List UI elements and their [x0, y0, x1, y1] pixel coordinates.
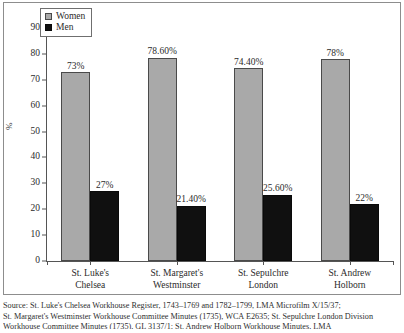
- bar-value-label: 74.40%: [234, 58, 263, 68]
- x-axis-category-label: St. Luke'sChelsea: [71, 267, 109, 291]
- y-axis-tick-30: 30: [31, 179, 41, 189]
- bar-pair: 78%22%: [307, 28, 394, 261]
- legend-item-men: Men: [45, 22, 85, 33]
- source-note-line-2: St. Margaret's Westminster Workhouse Com…: [3, 312, 401, 323]
- bar-group: 73%27%: [47, 28, 134, 261]
- bar-value-label: 78.60%: [148, 47, 177, 57]
- bar-women: 74.40%: [234, 68, 263, 261]
- x-axis-tickmark: [350, 261, 351, 265]
- figure: % 0102030405060708090 73%27%78.60%21.40%…: [0, 0, 404, 333]
- x-axis-tickmark: [263, 261, 264, 265]
- y-axis-tick-60: 60: [31, 101, 41, 111]
- x-axis-category-labels: St. Luke'sChelseaSt. Margaret'sWestminst…: [47, 267, 393, 297]
- bar-value-label: 73%: [67, 62, 84, 72]
- bar-women: 78%: [321, 59, 350, 261]
- source-note-line-3: Workhouse Committee Minutes (1735), GL 3…: [3, 322, 401, 329]
- bar-men: 22%: [350, 204, 379, 261]
- y-axis-tick-90: 90: [31, 23, 41, 33]
- y-axis-tick-20: 20: [31, 204, 41, 214]
- bar-men: 25.60%: [263, 195, 292, 261]
- y-axis-tick-10: 10: [31, 230, 41, 240]
- legend-label-women: Women: [56, 11, 85, 22]
- y-axis-label: %: [4, 123, 14, 131]
- bar-group: 74.40%25.60%: [220, 28, 307, 261]
- bar-pair: 73%27%: [47, 28, 134, 261]
- legend-label-men: Men: [56, 22, 73, 33]
- x-axis-category-label: St. SepulchreLondon: [238, 267, 289, 291]
- bar-women: 78.60%: [148, 58, 177, 261]
- bar-value-label: 22%: [356, 194, 373, 204]
- x-axis-category-label: St. AndrewHolborn: [328, 267, 371, 291]
- x-axis-tickmark: [90, 261, 91, 265]
- bar-men: 21.40%: [177, 206, 206, 261]
- bar-value-label: 78%: [327, 49, 344, 59]
- x-axis-tickmark: [177, 261, 178, 265]
- legend-swatch-women-icon: [45, 13, 52, 20]
- y-axis-tick-80: 80: [31, 49, 41, 59]
- y-axis-tick-labels: 0102030405060708090: [14, 28, 46, 260]
- bar-value-label: 27%: [96, 181, 113, 191]
- chart-legend: Women Men: [40, 8, 92, 37]
- bar-value-label: 21.40%: [177, 195, 206, 205]
- source-note-line-1: Source: St. Luke's Chelsea Workhouse Reg…: [3, 301, 401, 312]
- legend-item-women: Women: [45, 11, 85, 22]
- x-axis-tick-marks: [47, 261, 393, 266]
- bar-women: 73%: [61, 72, 90, 261]
- bar-pair: 74.40%25.60%: [220, 28, 307, 261]
- legend-swatch-men-icon: [45, 24, 52, 31]
- y-axis-tick-0: 0: [35, 256, 40, 266]
- bar-group: 78.60%21.40%: [134, 28, 221, 261]
- source-note: Source: St. Luke's Chelsea Workhouse Reg…: [3, 301, 401, 329]
- y-axis-tick-40: 40: [31, 153, 41, 163]
- x-axis-tickmark-edge: [47, 261, 48, 265]
- y-axis-tick-70: 70: [31, 75, 41, 85]
- bar-group: 78%22%: [307, 28, 394, 261]
- plot-area: 73%27%78.60%21.40%74.40%25.60%78%22%: [47, 28, 393, 261]
- x-axis-category-label: St. Margaret'sWestminster: [150, 267, 203, 291]
- bar-men: 27%: [90, 191, 119, 261]
- x-axis-tickmark-edge: [393, 261, 394, 265]
- bar-value-label: 25.60%: [263, 184, 292, 194]
- bar-pair: 78.60%21.40%: [134, 28, 221, 261]
- y-axis-tick-50: 50: [31, 127, 41, 137]
